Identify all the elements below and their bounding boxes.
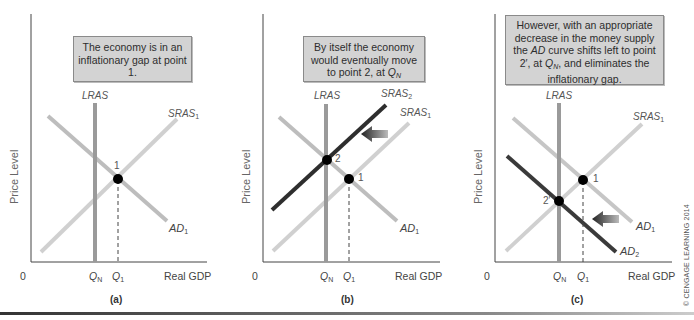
origin-label: 0 [484,270,490,282]
annotation-line-4: 2′, at QN, and eliminates the [506,57,663,74]
point-2-prime-label: 2′ [543,195,550,206]
ad1-label: AD1 [169,222,188,235]
annotation-box-a: The economy is in an inflationary gap at… [73,36,192,82]
origin-label: 0 [20,270,26,282]
panel-caption-c: (c) [571,294,583,305]
q-text: Q [89,270,97,282]
subscript: N [328,276,333,283]
subscript: 1 [415,228,419,235]
subscript: 1 [651,226,655,233]
lras-label: LRAS [82,90,108,101]
sras1-label: SRAS1 [400,107,431,119]
text: 2′, at [520,57,545,69]
subscript: 1 [120,276,124,283]
annotation-line-2: decrease in the money supply [506,32,663,45]
subscript: 2 [635,251,639,258]
sras1-curve [506,124,642,251]
point-2-prime [554,196,564,206]
panel-caption-b: (b) [341,294,354,305]
origin-label: 0 [252,270,258,282]
point-1 [578,175,588,185]
ad1-curve [48,116,167,221]
q1-tick: Q1 [343,270,355,283]
sras1-label: SRAS1 [633,111,664,123]
q-text: Q [577,270,585,282]
q-text: Q [545,57,553,69]
point-1-label: 1 [358,172,364,183]
y-axis-label: Price Level [8,150,20,204]
text: the [513,44,531,56]
sras1-curve [273,123,409,251]
subscript: N [396,72,401,79]
q-text: Q [388,66,396,78]
ad-text: AD [531,44,546,56]
lras-label: LRAS [314,90,340,101]
q-text: Q [112,270,120,282]
annotation-line-5: inflationary gap. [506,73,663,86]
ad-text: AD [169,222,184,234]
y-axis-label: Price Level [240,150,252,204]
point-1 [344,174,354,184]
ad1-label: AD1 [636,220,655,233]
ad-text: AD [400,222,415,234]
ad-text: AD [620,245,635,257]
shift-left-arrow [592,211,619,227]
q-text: Q [320,270,328,282]
subscript: 1 [195,113,199,120]
y-axis-label: Price Level [472,150,484,204]
x-axis-label: Real GDP [395,270,442,282]
ad1-curve [513,118,632,222]
point-2 [322,155,332,165]
annotation-box-c: However, with an appropriate decrease in… [505,15,664,85]
point-1-label: 1 [593,173,599,184]
subscript: 1 [184,228,188,235]
sras1-label: SRAS1 [168,108,199,120]
x-axis-label: Real GDP [628,270,675,282]
q1-tick: Q1 [112,270,124,283]
text: curve shifts left to point [545,44,655,56]
annotation-line-1: However, with an appropriate [506,19,663,32]
subscript: 1 [585,276,589,283]
shift-left-arrow [361,126,388,142]
annotation-box-b: By itself the economy would eventually m… [303,36,425,82]
subscript: 1 [660,116,664,123]
annotation-text: The economy is in an inflationary gap at… [78,41,187,78]
subscript: N [561,276,566,283]
sras-text: SRAS [400,107,427,118]
subscript: 1 [351,276,355,283]
point-1-label: 1 [114,160,120,171]
sras2-label: SRAS2 [381,88,412,100]
copyright-notice: © CENGAGE LEARNING 2014 [683,204,690,306]
sras-text: SRAS [381,88,408,99]
point-1 [113,174,123,184]
qn-tick: QN [553,270,566,283]
subscript: N [97,276,102,283]
q-text: Q [343,270,351,282]
q1-tick: Q1 [577,270,589,283]
bottom-divider [0,312,694,315]
ad2-label: AD2 [620,245,639,258]
annotation-text: By itself the economy would eventually m… [311,41,417,78]
subscript: 2 [408,93,412,100]
ad-text: AD [636,220,651,232]
qn-tick: QN [89,270,102,283]
subscript: 1 [427,112,431,119]
text: , and eliminates the [558,57,649,69]
x-axis-label: Real GDP [164,270,211,282]
ad1-label: AD1 [400,222,419,235]
lras-label: LRAS [546,90,572,101]
sras-text: SRAS [633,111,660,122]
qn-tick: QN [320,270,333,283]
sras1-curve [41,119,177,252]
sras-text: SRAS [168,108,195,119]
annotation-line-3: the AD curve shifts left to point [506,44,663,57]
panel-caption-a: (a) [110,294,122,305]
point-2-label: 2 [335,153,341,164]
q-text: Q [553,270,561,282]
